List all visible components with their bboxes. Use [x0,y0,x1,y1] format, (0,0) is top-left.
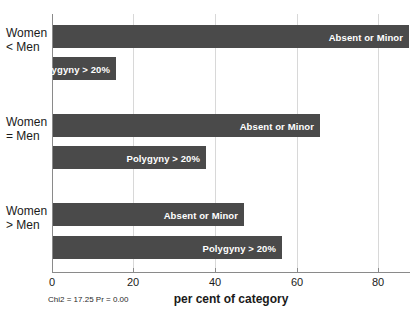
x-tick-label-60: 60 [291,276,303,288]
bar-value-label: Polygyny > 20% [37,63,110,74]
x-tick-mark-80 [378,268,379,273]
x-tick-mark-40 [215,268,216,273]
x-axis-line [52,272,410,273]
x-tick-label-40: 40 [209,276,221,288]
bar-women-lt-men-absent-or-minor: Absent or Minor [53,25,409,48]
bar-women-eq-men-polygyny-gt-20: Polygyny > 20% [53,146,206,169]
gridline-60 [297,14,298,272]
category-label-women-lt-men: Women < Men [6,26,50,54]
category-label-women-eq-men: Women = Men [6,115,50,143]
gridline-40 [215,14,216,272]
x-tick-mark-60 [297,268,298,273]
y-axis-line [52,14,53,273]
bar-value-label: Polygyny > 20% [127,152,200,163]
bar-women-lt-men-polygyny-gt-20: Polygyny > 20% [53,57,116,80]
gridline-80 [378,14,379,272]
bar-value-label: Polygyny > 20% [203,242,276,253]
bar-women-gt-men-polygyny-gt-20: Polygyny > 20% [53,236,282,259]
bar-value-label: Absent or Minor [240,120,314,131]
bar-women-gt-men-absent-or-minor: Absent or Minor [53,203,244,226]
plot-area [52,14,410,272]
bar-chart: 0 20 40 60 80 Women < Men Women = Men Wo… [0,0,420,321]
x-tick-mark-20 [133,268,134,273]
x-tick-label-0: 0 [49,276,55,288]
bar-women-eq-men-absent-or-minor: Absent or Minor [53,114,320,137]
bar-value-label: Absent or Minor [329,31,403,42]
category-label-women-gt-men: Women > Men [6,204,50,232]
x-tick-label-20: 20 [127,276,139,288]
gridline-20 [133,14,134,272]
x-tick-label-80: 80 [372,276,384,288]
bar-value-label: Absent or Minor [164,209,238,220]
chi-square-annotation: Chi2 = 17.25 Pr = 0.00 [48,295,129,304]
x-tick-mark-0 [52,268,53,273]
